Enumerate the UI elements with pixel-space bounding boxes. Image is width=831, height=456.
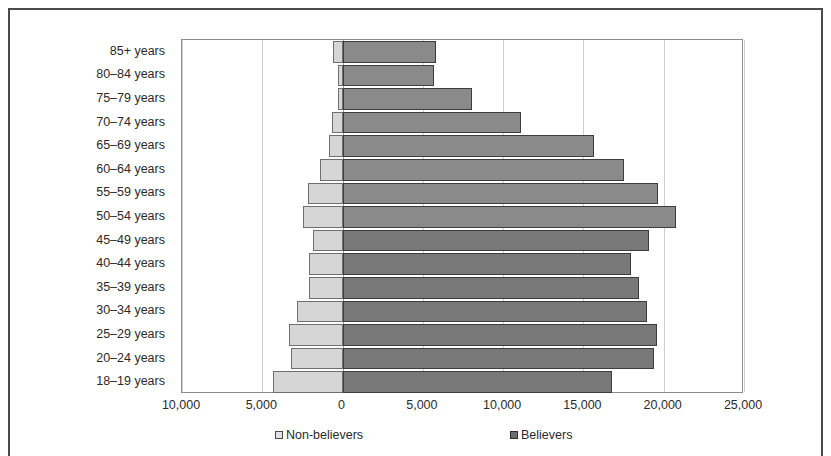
bar-row <box>182 300 742 324</box>
bar-non-believers <box>308 183 343 205</box>
bar-row <box>182 87 742 111</box>
bar-row <box>182 134 742 158</box>
bar-row <box>182 347 742 371</box>
x-axis-tick-label: 0 <box>338 398 345 412</box>
legend-label: Non-believers <box>286 428 363 442</box>
bar-believers <box>343 230 650 252</box>
y-axis-label: 30–34 years <box>96 303 165 317</box>
x-axis-tick-label: 25,000 <box>724 398 762 412</box>
bar-non-believers <box>303 206 343 228</box>
y-axis-label: 20–24 years <box>96 351 165 365</box>
population-pyramid-chart: 85+ years80–84 years75–79 years70–74 yea… <box>0 0 831 456</box>
y-axis-label: 65–69 years <box>96 138 165 152</box>
legend-entry[interactable]: Non-believers <box>275 428 363 442</box>
gridline <box>744 40 745 392</box>
bar-believers <box>343 41 436 63</box>
bar-row <box>182 276 742 300</box>
chart-screenshot: 85+ years80–84 years75–79 years70–74 yea… <box>0 0 831 456</box>
bar-believers <box>343 371 613 393</box>
bar-non-believers <box>313 230 343 252</box>
legend-swatch-icon <box>275 431 283 439</box>
bar-believers <box>343 159 624 181</box>
bar-row <box>182 252 742 276</box>
x-axis-tick-label: 5,000 <box>246 398 277 412</box>
y-axis-label: 50–54 years <box>96 209 165 223</box>
bar-non-believers <box>320 159 342 181</box>
bar-non-believers <box>332 112 343 134</box>
y-axis-label: 75–79 years <box>96 91 165 105</box>
bar-row <box>182 323 742 347</box>
x-axis-tick-labels: 10,0005,00005,00010,00015,00020,00025,00… <box>0 398 831 418</box>
x-axis-tick-label: 20,000 <box>644 398 682 412</box>
bar-rows <box>182 40 742 392</box>
y-axis-label: 25–29 years <box>96 327 165 341</box>
bar-believers <box>343 88 472 110</box>
bar-row <box>182 205 742 229</box>
bar-non-believers <box>309 277 343 299</box>
bar-believers <box>343 253 631 275</box>
y-axis-label: 60–64 years <box>96 162 165 176</box>
legend-entry[interactable]: Believers <box>510 428 572 442</box>
y-axis-category-labels: 85+ years80–84 years75–79 years70–74 yea… <box>0 39 173 393</box>
bar-row <box>182 111 742 135</box>
x-axis-tick-label: 15,000 <box>563 398 601 412</box>
legend-label: Believers <box>521 428 572 442</box>
bar-row <box>182 64 742 88</box>
y-axis-label: 45–49 years <box>96 233 165 247</box>
bar-believers <box>343 324 657 346</box>
bar-row <box>182 158 742 182</box>
bar-non-believers <box>309 253 343 275</box>
bar-believers <box>343 277 639 299</box>
bar-non-believers <box>329 135 343 157</box>
y-axis-label: 80–84 years <box>96 67 165 81</box>
bar-believers <box>343 301 647 323</box>
y-axis-label: 35–39 years <box>96 280 165 294</box>
y-axis-label: 70–74 years <box>96 115 165 129</box>
bar-row <box>182 229 742 253</box>
bar-believers <box>343 135 594 157</box>
bar-non-believers <box>289 324 343 346</box>
bar-row <box>182 40 742 64</box>
legend-swatch-icon <box>510 431 518 439</box>
x-axis-tick-label: 10,000 <box>483 398 521 412</box>
bar-believers <box>343 112 521 134</box>
bar-non-believers <box>291 348 343 370</box>
bar-believers <box>343 183 659 205</box>
y-axis-label: 40–44 years <box>96 256 165 270</box>
plot-area <box>181 39 743 393</box>
bar-non-believers <box>297 301 343 323</box>
bar-believers <box>343 348 655 370</box>
x-axis-tick-label: 5,000 <box>406 398 437 412</box>
bar-believers <box>343 206 677 228</box>
bar-row <box>182 370 742 394</box>
chart-legend: Non-believersBelievers <box>0 428 831 448</box>
bar-non-believers <box>333 41 343 63</box>
bar-row <box>182 182 742 206</box>
y-axis-label: 18–19 years <box>96 374 165 388</box>
y-axis-label: 55–59 years <box>96 185 165 199</box>
x-axis-tick-label: 10,000 <box>162 398 200 412</box>
bar-believers <box>343 65 435 87</box>
y-axis-label: 85+ years <box>110 44 165 58</box>
bar-non-believers <box>273 371 343 393</box>
